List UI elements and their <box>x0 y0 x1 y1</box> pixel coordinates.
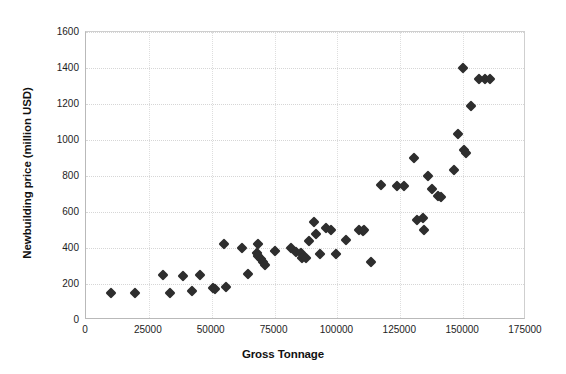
x-axis-tick-label: 25000 <box>134 324 162 335</box>
gridline-vertical <box>400 32 401 318</box>
y-axis-tick-label: 400 <box>35 242 79 253</box>
y-axis-tick-label: 200 <box>35 278 79 289</box>
x-axis-tick-label: 125000 <box>383 324 416 335</box>
y-axis-tick-label: 600 <box>35 206 79 217</box>
data-point <box>195 269 206 280</box>
data-point <box>220 281 231 292</box>
y-axis-tick-labels: 02004006008001000120014001600 <box>33 31 79 319</box>
gridline-horizontal <box>86 32 524 33</box>
gridline-horizontal <box>86 248 524 249</box>
gridline-vertical <box>212 32 213 318</box>
y-axis-tick-label: 1400 <box>35 62 79 73</box>
data-point <box>308 216 319 227</box>
x-axis-tick-label: 175000 <box>508 324 541 335</box>
y-axis-tick-label: 800 <box>35 170 79 181</box>
data-point <box>105 287 116 298</box>
data-point <box>165 287 176 298</box>
data-point <box>457 62 468 73</box>
data-point <box>366 256 377 267</box>
gridline-vertical <box>149 32 150 318</box>
gridline-vertical <box>337 32 338 318</box>
x-axis-tick-labels: 0250005000075000100000125000150000175000 <box>85 324 525 340</box>
gridline-horizontal <box>86 212 524 213</box>
data-point <box>422 170 433 181</box>
data-point <box>449 164 460 175</box>
y-axis-tick-label: 1200 <box>35 98 79 109</box>
gridline-vertical <box>463 32 464 318</box>
data-point <box>177 270 188 281</box>
x-axis-title: Gross Tonnage <box>0 348 566 360</box>
x-axis-tick-label: 150000 <box>445 324 478 335</box>
x-axis-tick-label: 100000 <box>320 324 353 335</box>
data-point <box>418 224 429 235</box>
x-axis-tick-label: 75000 <box>260 324 288 335</box>
y-axis-tick-label: 0 <box>35 314 79 325</box>
data-point <box>452 128 463 139</box>
data-point <box>157 269 168 280</box>
y-axis-tick-label: 1000 <box>35 134 79 145</box>
data-point <box>242 268 253 279</box>
data-point <box>341 234 352 245</box>
gridline-horizontal <box>86 284 524 285</box>
data-point <box>129 287 140 298</box>
y-axis-tick-label: 1600 <box>35 26 79 37</box>
gridline-horizontal <box>86 104 524 105</box>
data-point <box>236 242 247 253</box>
x-axis-tick-label: 50000 <box>197 324 225 335</box>
scatter-chart: Newbuilding price (million USD) 02004006… <box>0 0 566 374</box>
data-point <box>376 179 387 190</box>
gridline-horizontal <box>86 140 524 141</box>
data-point <box>330 249 341 260</box>
data-point <box>314 249 325 260</box>
x-axis-tick-label: 0 <box>82 324 88 335</box>
data-point <box>186 286 197 297</box>
gridline-vertical <box>275 32 276 318</box>
data-point <box>269 245 280 256</box>
y-axis-title: Newbuilding price (million USD) <box>21 87 33 258</box>
data-point <box>465 100 476 111</box>
plot-area <box>85 31 525 319</box>
gridline-horizontal <box>86 176 524 177</box>
data-point <box>408 152 419 163</box>
